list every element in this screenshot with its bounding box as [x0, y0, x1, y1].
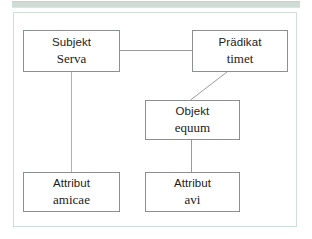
node-attribut-avi-role: Attribut	[174, 177, 211, 190]
node-subjekt-role: Subjekt	[52, 36, 91, 49]
node-attribut-avi-word: avi	[185, 192, 201, 208]
node-objekt-role: Objekt	[176, 105, 210, 118]
node-praedikat[interactable]: Prädikat timet	[192, 30, 288, 72]
node-attribut-avi[interactable]: Attribut avi	[145, 172, 240, 212]
node-attribut-amicae-word: amicae	[53, 192, 90, 208]
node-subjekt-word: Serva	[57, 51, 87, 67]
node-attribut-amicae[interactable]: Attribut amicae	[23, 172, 120, 212]
node-praedikat-word: timet	[227, 51, 254, 67]
node-objekt[interactable]: Objekt equum	[145, 100, 240, 140]
top-accent-band	[12, 1, 300, 8]
node-objekt-word: equum	[175, 120, 210, 136]
node-subjekt[interactable]: Subjekt Serva	[23, 30, 120, 72]
node-attribut-amicae-role: Attribut	[53, 177, 90, 190]
node-praedikat-role: Prädikat	[219, 36, 262, 49]
